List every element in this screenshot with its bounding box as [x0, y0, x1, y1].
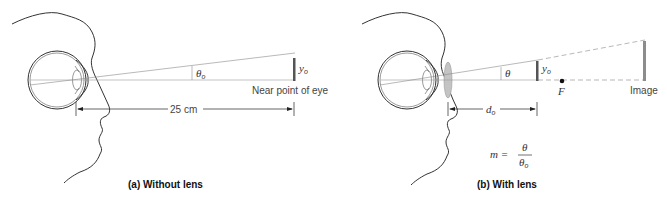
angle-theta: θ — [505, 67, 511, 79]
image-bar — [643, 41, 646, 81]
distance-do-label: do — [486, 103, 496, 116]
object-bar — [293, 58, 296, 81]
virtual-ray — [538, 40, 645, 60]
caption-b: (b) With lens — [477, 179, 537, 190]
head-profile — [362, 13, 457, 185]
focal-point-label: F — [557, 85, 565, 97]
equation-denominator: θo — [519, 156, 528, 169]
panel-a: θo yo Near point of eye 25 cm (a) Withou… — [12, 13, 329, 190]
equation-lhs: m = — [490, 148, 508, 160]
object-height-label: yo — [298, 62, 308, 75]
chief-ray — [380, 60, 538, 85]
image-label: Image — [630, 85, 658, 96]
magnifier-diagram: θo yo Near point of eye 25 cm (a) Withou… — [0, 0, 667, 202]
near-point-label: Near point of eye — [252, 85, 329, 96]
panel-b: θ yo F Image do m = θ θo (b) With lens — [362, 13, 658, 190]
equation-numerator: θ — [522, 141, 528, 153]
object-bar — [536, 61, 539, 81]
angle-theta-o: θo — [196, 67, 205, 80]
distance-25cm-label: 25 cm — [170, 104, 197, 115]
head-profile — [12, 13, 110, 183]
focal-point — [560, 79, 565, 84]
magnification-equation: m = θ θo — [490, 141, 532, 169]
object-height-label: yo — [541, 62, 551, 75]
caption-a: (a) Without lens — [128, 179, 203, 190]
